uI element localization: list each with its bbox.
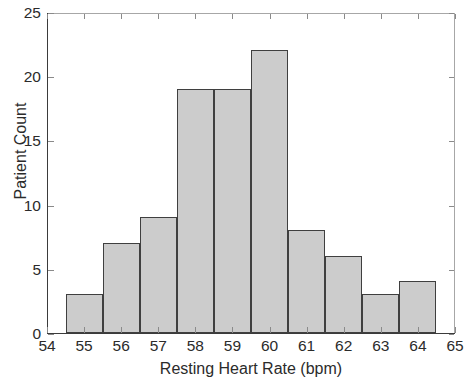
x-axis-tick-top bbox=[455, 14, 456, 19]
x-axis-tick-label: 61 bbox=[298, 338, 315, 354]
x-axis-tick bbox=[270, 327, 271, 333]
x-axis-tick bbox=[418, 327, 419, 333]
x-axis-tick-top bbox=[344, 14, 345, 19]
histogram-bar bbox=[251, 50, 288, 332]
x-axis-tick bbox=[84, 327, 85, 333]
x-axis-tick bbox=[455, 327, 456, 333]
histogram-bar bbox=[103, 243, 140, 333]
x-axis-tick-label: 56 bbox=[113, 338, 130, 354]
x-axis-tick-top bbox=[270, 14, 271, 19]
x-axis-tick-label: 60 bbox=[261, 338, 278, 354]
x-axis-tick bbox=[158, 327, 159, 333]
y-axis-tick bbox=[48, 13, 54, 14]
x-axis-tick-top bbox=[381, 14, 382, 19]
y-axis-tick-right bbox=[449, 77, 454, 78]
x-axis-tick-top bbox=[158, 14, 159, 19]
x-axis-tick-top bbox=[121, 14, 122, 19]
y-axis-tick-label: 25 bbox=[24, 5, 41, 21]
x-axis-title: Resting Heart Rate (bpm) bbox=[47, 360, 455, 378]
y-axis-tick bbox=[48, 77, 54, 78]
x-axis-tick-label: 55 bbox=[75, 338, 92, 354]
axis-spine-top bbox=[47, 13, 455, 14]
x-axis-tick bbox=[195, 327, 196, 333]
axis-spine-bottom bbox=[47, 333, 455, 334]
histogram-bar bbox=[325, 256, 362, 333]
x-axis-tick bbox=[47, 327, 48, 333]
x-axis-tick-label: 64 bbox=[409, 338, 426, 354]
x-axis-tick-label: 57 bbox=[150, 338, 167, 354]
histogram-bar bbox=[214, 89, 251, 333]
x-axis-tick-top bbox=[47, 14, 48, 19]
histogram-bar bbox=[288, 230, 325, 333]
y-axis-tick-right bbox=[449, 141, 454, 142]
axis-spine-right bbox=[454, 13, 455, 334]
x-axis-tick-label: 54 bbox=[38, 338, 55, 354]
histogram-figure: 0510152025 Patient Count 545556575859606… bbox=[0, 0, 471, 385]
histogram-bar bbox=[140, 217, 177, 333]
x-axis-tick-label: 58 bbox=[187, 338, 204, 354]
x-axis-tick-label: 59 bbox=[224, 338, 241, 354]
y-axis-tick-label: 5 bbox=[32, 262, 41, 278]
histogram-bar bbox=[177, 89, 214, 333]
x-axis-tick-top bbox=[418, 14, 419, 19]
axis-spine-left bbox=[47, 13, 48, 334]
y-axis-tick-right bbox=[449, 206, 454, 207]
plot-area bbox=[47, 13, 455, 334]
y-axis-tick bbox=[48, 270, 54, 271]
x-axis-tick-top bbox=[232, 14, 233, 19]
y-axis-tick bbox=[48, 334, 54, 335]
x-axis-tick-top bbox=[307, 14, 308, 19]
y-axis-title: Patient Count bbox=[12, 36, 30, 266]
x-axis-tick bbox=[121, 327, 122, 333]
y-axis-tick bbox=[48, 141, 54, 142]
y-axis-tick-right bbox=[449, 334, 454, 335]
y-axis-tick-right bbox=[449, 270, 454, 271]
x-axis-tick-labels: 545556575859606162636465 bbox=[47, 338, 455, 360]
histogram-bar bbox=[399, 281, 436, 332]
x-axis-tick-top bbox=[195, 14, 196, 19]
y-axis-tick-right bbox=[449, 13, 454, 14]
x-axis-tick bbox=[381, 327, 382, 333]
x-axis-tick-label: 65 bbox=[446, 338, 463, 354]
x-axis-tick bbox=[232, 327, 233, 333]
x-axis-tick-label: 62 bbox=[335, 338, 352, 354]
x-axis-tick bbox=[307, 327, 308, 333]
x-axis-tick-top bbox=[84, 14, 85, 19]
x-axis-tick bbox=[344, 327, 345, 333]
y-axis-tick bbox=[48, 206, 54, 207]
x-axis-tick-label: 63 bbox=[372, 338, 389, 354]
